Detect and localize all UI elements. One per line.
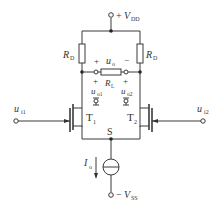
io-symbol: I [83,157,88,168]
uo1-symbol: u [91,86,96,96]
load-resistor: R L + + [80,69,142,89]
output2-terminal-group: u o2 [121,86,133,105]
junction-top [109,29,113,33]
rl-subscript: L [111,83,115,89]
output-voltage-label: + u o − [94,55,129,67]
uo2-subscript: o2 [127,91,133,97]
ui1-arrow-icon [64,119,70,123]
output1-terminal-group: u o1 [91,86,103,105]
ui1-terminal[interactable] [14,119,18,123]
t1-subscript: 1 [93,119,96,125]
rl-terminal-left[interactable] [94,70,98,74]
vdd-terminal[interactable] [109,13,114,18]
uo2-symbol: u [121,86,126,96]
t2-symbol: T [127,111,134,123]
rl-left-sign: + [93,76,98,86]
vss-subscript: SS [131,195,138,201]
resistor-rd-right: R D [137,31,158,127]
io-arrow-icon [94,173,98,179]
ui2-symbol: u [197,103,202,114]
uo2-terminal[interactable] [124,99,128,103]
rl-right-sign: + [123,76,128,86]
vss-supply: − V SS [109,189,138,201]
io-subscript: o [89,164,92,170]
rd-left-symbol: R [62,49,69,60]
t1-symbol: T [86,111,93,123]
rd-right-subscript: D [153,55,158,61]
rl-body [101,69,121,75]
source-node-label: S [107,126,113,137]
ui1-subscript: i1 [21,109,26,115]
ui2-arrow-icon [152,119,158,123]
uo-subscript: o [112,61,115,67]
vdd-subscript: DD [131,16,140,22]
uo-symbol: u [106,55,111,66]
resistor-body-right [137,44,143,63]
transistor-t1: T 1 [70,104,96,139]
vss-sign: − [116,189,122,200]
rl-symbol: R [104,78,111,88]
current-source: I o [83,139,119,192]
ui2-subscript: i2 [204,109,209,115]
circuit-diagram: + V DD R D R D R L + + + u [0,0,218,211]
rd-right-symbol: R [145,49,152,60]
vdd-supply: + V DD [109,10,141,31]
rd-left-subscript: D [70,55,75,61]
uo1-subscript: o1 [97,91,103,97]
resistor-body-left [79,44,85,63]
uo-plus: + [94,56,99,66]
input1: u i1 [14,103,70,123]
t2-subscript: 2 [134,119,137,125]
uo1-terminal[interactable] [94,99,98,103]
input2: u i2 [152,103,209,123]
uo-minus: − [124,55,129,65]
rl-terminal-right[interactable] [124,70,128,74]
vss-terminal[interactable] [109,193,114,198]
ui2-terminal[interactable] [201,119,205,123]
vdd-sign: + [116,10,122,21]
ui1-symbol: u [14,103,19,114]
